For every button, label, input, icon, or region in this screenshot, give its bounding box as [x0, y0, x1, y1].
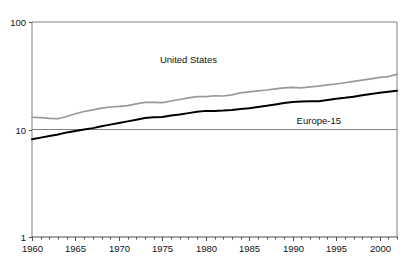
x-tick-label-2000: 2000	[370, 243, 391, 254]
x-axis-tick-labels: 196019651970197519801985199019952000	[22, 243, 391, 254]
x-tick-label-1975: 1975	[152, 243, 173, 254]
x-tick-label-1985: 1985	[239, 243, 260, 254]
y-tick-label-1: 1	[21, 232, 26, 243]
y-tick-label-10: 10	[15, 125, 26, 136]
y-tick-label-100: 100	[10, 17, 26, 28]
line-chart: 100101 196019651970197519801985199019952…	[0, 0, 419, 272]
series-label-united-states: United States	[160, 54, 217, 65]
x-tick-label-1995: 1995	[326, 243, 347, 254]
x-tick-label-1970: 1970	[109, 243, 130, 254]
series-label-europe-15: Europe-15	[297, 115, 341, 126]
x-tick-label-1980: 1980	[196, 243, 217, 254]
x-tick-label-1990: 1990	[283, 243, 304, 254]
chart-container: 100101 196019651970197519801985199019952…	[0, 0, 419, 272]
x-tick-label-1960: 1960	[22, 243, 43, 254]
x-tick-label-1965: 1965	[65, 243, 86, 254]
chart-background	[0, 0, 419, 272]
